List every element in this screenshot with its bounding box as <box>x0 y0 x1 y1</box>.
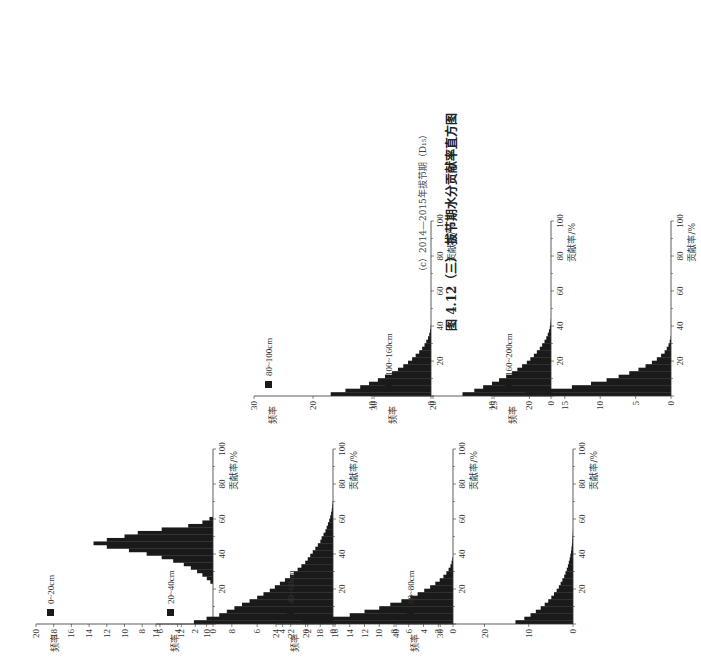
histogram-bar <box>657 357 671 361</box>
legend-label: 40~60cm <box>286 570 296 604</box>
y-tick-label: 20 <box>428 401 438 411</box>
histogram-bar <box>545 603 573 607</box>
y-tick-label: 8 <box>227 629 237 634</box>
histogram-bar <box>541 606 573 610</box>
y-tick-label: 30 <box>369 401 379 411</box>
legend-label: 100~160cm <box>384 333 394 376</box>
y-axis-title: 频率 <box>49 634 60 652</box>
legend-label: 20~40cm <box>166 570 176 604</box>
legend-swatch <box>265 381 272 388</box>
y-axis-title: 频率 <box>267 406 278 424</box>
y-axis-title: 频率 <box>169 634 180 652</box>
x-axis-title: 贡献率/% <box>686 223 697 262</box>
y-tick-label: 10 <box>524 629 534 639</box>
y-tick-label: 0 <box>568 629 578 634</box>
x-tick-label: 20 <box>577 584 587 594</box>
x-tick-label: 40 <box>675 321 685 331</box>
histogram-svg: 01020304020406080100频率贡献率/%60~80cm <box>388 439 603 654</box>
figure-subcaption: （c）2014—2015年拔节期（D₁₅） <box>416 130 429 276</box>
y-axis-title: 频率 <box>409 634 420 652</box>
histogram-bar <box>652 361 671 365</box>
histogram-bar <box>559 585 573 589</box>
y-tick-label: 10 <box>120 629 130 639</box>
y-tick-label: 16 <box>66 629 76 639</box>
histogram-svg: 051015202520406080100频率贡献率/%160~200cm <box>486 211 701 426</box>
legend-swatch <box>167 609 174 616</box>
y-tick-label: 8 <box>137 629 147 634</box>
histogram-bar <box>561 582 573 586</box>
y-tick-label: 6 <box>252 629 262 634</box>
y-tick-label: 0 <box>666 401 676 406</box>
histogram-bar <box>567 568 573 572</box>
histogram-bar <box>569 561 573 565</box>
y-axis-title: 频率 <box>387 406 398 424</box>
legend-swatch <box>385 381 392 388</box>
histogram-bar <box>619 375 671 379</box>
y-tick-label: 12 <box>102 629 112 638</box>
histogram-bar <box>667 347 671 351</box>
y-tick-label: 18 <box>315 629 325 639</box>
histogram-bar <box>629 371 671 375</box>
legend-swatch <box>287 609 294 616</box>
y-tick-label: 20 <box>308 401 318 411</box>
histogram-bar <box>591 382 671 386</box>
x-tick-label: 20 <box>675 356 685 366</box>
y-axis-title: 频率 <box>289 634 300 652</box>
histogram-bar <box>564 575 573 579</box>
legend-swatch <box>407 609 414 616</box>
y-tick-label: 14 <box>151 629 161 639</box>
legend-label: 160~200cm <box>504 333 514 376</box>
legend-label: 80~100cm <box>264 338 274 376</box>
x-tick-label: 60 <box>577 514 587 524</box>
y-tick-label: 12 <box>360 629 370 638</box>
y-tick-label: 25 <box>489 401 499 411</box>
histogram-bar <box>549 389 671 393</box>
histogram-bar <box>557 589 573 593</box>
y-tick-label: 30 <box>249 401 259 411</box>
histogram-bar <box>551 596 573 600</box>
y-tick-label: 14 <box>84 629 94 639</box>
x-tick-label: 80 <box>577 479 587 489</box>
x-tick-label: 80 <box>675 251 685 261</box>
histogram-bar <box>607 378 671 382</box>
y-tick-label: 5 <box>631 401 641 406</box>
histogram-bar <box>572 385 671 389</box>
histogram-bar <box>638 368 671 372</box>
histogram-bar <box>570 557 573 561</box>
histogram-bar <box>548 599 573 603</box>
legend-label: 0~20cm <box>46 575 56 604</box>
histogram-bar <box>665 350 671 354</box>
x-tick-label: 40 <box>577 549 587 559</box>
histogram-bar <box>524 617 573 621</box>
y-tick-label: 30 <box>435 629 445 639</box>
histogram-bar <box>661 354 671 358</box>
y-tick-label: 20 <box>31 629 41 639</box>
histogram-bar <box>515 620 573 624</box>
y-tick-label: 16 <box>330 629 340 639</box>
histogram-bar <box>568 564 573 568</box>
histogram-bar <box>554 592 573 596</box>
y-tick-label: 20 <box>480 629 490 639</box>
y-tick-label: 24 <box>271 629 281 639</box>
x-tick-label: 100 <box>577 442 587 456</box>
legend-swatch <box>47 609 54 616</box>
y-tick-label: 10 <box>202 629 212 639</box>
y-tick-label: 10 <box>595 401 605 411</box>
figure-caption: 图 4.12（三） 拔节期水分贡献率直方图 <box>442 113 459 331</box>
y-tick-label: 10 <box>374 629 384 639</box>
y-tick-label: 14 <box>345 629 355 639</box>
y-axis-title: 频率 <box>507 406 518 424</box>
legend-swatch <box>505 381 512 388</box>
x-axis-title: 贡献率/% <box>588 451 599 490</box>
histogram-bar <box>531 613 573 617</box>
y-tick-label: 20 <box>301 629 311 639</box>
x-tick-label: 60 <box>675 286 685 296</box>
y-tick-label: 20 <box>524 401 534 411</box>
histogram-bar <box>526 392 671 396</box>
histogram-bar <box>562 578 573 582</box>
legend-label: 60~80cm <box>406 570 416 604</box>
y-tick-label: 40 <box>391 629 401 639</box>
histogram-bar <box>536 610 573 614</box>
x-tick-label: 100 <box>675 214 685 228</box>
